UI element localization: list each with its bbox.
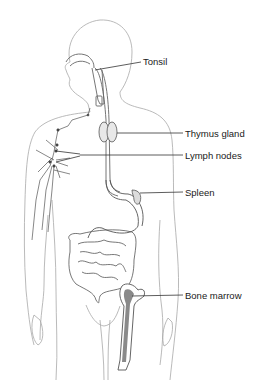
label-lymph-nodes: Lymph nodes (185, 151, 242, 161)
thymus-gland (99, 122, 117, 142)
label-tonsil: Tonsil (143, 57, 167, 67)
spleen (132, 190, 141, 204)
femur-bone-marrow (118, 284, 145, 370)
label-bone-marrow: Bone marrow (185, 291, 242, 301)
leader-lines (56, 62, 183, 296)
stomach (88, 180, 143, 238)
lymph-vessels (32, 108, 90, 240)
label-thymus-gland: Thymus gland (185, 129, 245, 139)
lymphatic-system-diagram (0, 0, 271, 380)
label-spleen: Spleen (185, 188, 215, 198)
body-outline (24, 20, 178, 380)
